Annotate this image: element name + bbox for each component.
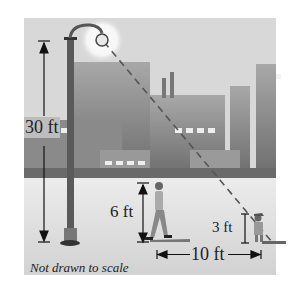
person-height-label: 6 ft [110,202,133,222]
streetlight-diagram [0,0,299,284]
child-height-label: 3 ft [212,219,232,236]
distance-label: 10 ft [191,244,225,265]
scale-note: Not drawn to scale [30,260,129,276]
pole-height-label: 30 ft [24,117,60,138]
